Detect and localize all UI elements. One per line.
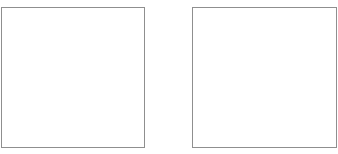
empty-panel-left <box>1 7 145 148</box>
empty-panel-right <box>192 7 337 148</box>
